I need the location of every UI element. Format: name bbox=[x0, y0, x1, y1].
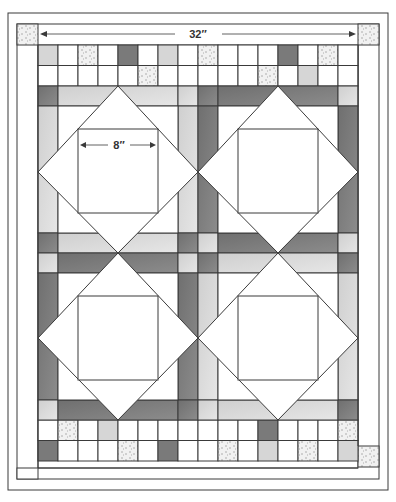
patch-square bbox=[98, 66, 118, 87]
patch-square bbox=[78, 45, 98, 66]
patch-square bbox=[198, 420, 218, 441]
patch-square bbox=[118, 420, 138, 441]
arrow-left-icon bbox=[40, 31, 47, 37]
center-square bbox=[238, 296, 318, 380]
patch-square bbox=[58, 420, 78, 441]
patch-square bbox=[278, 66, 298, 87]
patch-square bbox=[178, 45, 198, 66]
patch-square bbox=[158, 66, 178, 87]
patch-square bbox=[318, 66, 338, 87]
patch-square bbox=[138, 66, 158, 87]
patch-square bbox=[98, 45, 118, 66]
patch-square bbox=[158, 45, 178, 66]
patch-square bbox=[58, 45, 78, 66]
patch-square bbox=[78, 66, 98, 87]
patch-square bbox=[218, 66, 238, 87]
patch-square bbox=[38, 45, 58, 66]
patch-square bbox=[78, 441, 98, 462]
patch-square bbox=[198, 441, 218, 462]
patch-square bbox=[98, 441, 118, 462]
patch-square bbox=[238, 66, 258, 87]
patch-square bbox=[278, 441, 298, 462]
center-square bbox=[238, 129, 318, 213]
block-center-label: 8″ bbox=[113, 139, 125, 151]
patch-square bbox=[298, 441, 318, 462]
patch-square bbox=[118, 441, 138, 462]
patch-square bbox=[338, 441, 358, 462]
corner-square-bottom-left bbox=[17, 468, 38, 479]
patch-square bbox=[58, 66, 78, 87]
patch-square bbox=[38, 66, 58, 87]
patch-square bbox=[38, 441, 58, 462]
patch-square bbox=[178, 441, 198, 462]
patch-square bbox=[178, 66, 198, 87]
patch-square bbox=[138, 45, 158, 66]
patch-square bbox=[138, 441, 158, 462]
patch-square bbox=[158, 420, 178, 441]
patch-square bbox=[238, 45, 258, 66]
patch-square bbox=[338, 420, 358, 441]
patch-square bbox=[118, 66, 138, 87]
patch-square bbox=[218, 420, 238, 441]
patch-square bbox=[338, 45, 358, 66]
patch-square bbox=[218, 45, 238, 66]
patch-square bbox=[338, 66, 358, 87]
bottom-pieced-rows bbox=[38, 420, 358, 461]
quilt-diagram: 32″ 8″ bbox=[0, 0, 396, 502]
patch-square bbox=[278, 45, 298, 66]
corner-square-bottom-right bbox=[358, 446, 379, 467]
corner-square-top-right bbox=[358, 24, 379, 45]
patch-square bbox=[38, 420, 58, 441]
patch-square bbox=[58, 441, 78, 462]
overall-width-label: 32″ bbox=[189, 28, 207, 40]
patch-square bbox=[98, 420, 118, 441]
patch-square bbox=[238, 441, 258, 462]
patch-square bbox=[158, 441, 178, 462]
center-square bbox=[78, 296, 158, 380]
patch-square bbox=[198, 66, 218, 87]
patch-square bbox=[78, 420, 98, 441]
patch-square bbox=[138, 420, 158, 441]
patch-square bbox=[318, 420, 338, 441]
patch-square bbox=[278, 420, 298, 441]
patch-square bbox=[178, 420, 198, 441]
patch-square bbox=[238, 420, 258, 441]
top-pieced-rows bbox=[38, 45, 358, 86]
patch-square bbox=[218, 441, 238, 462]
arrow-right-icon bbox=[349, 31, 356, 37]
patch-square bbox=[258, 66, 278, 87]
patch-square bbox=[298, 45, 318, 66]
patch-square bbox=[318, 45, 338, 66]
overall-width-dimension: 32″ bbox=[40, 28, 356, 40]
patch-square bbox=[298, 66, 318, 87]
patch-square bbox=[298, 420, 318, 441]
patch-square bbox=[118, 45, 138, 66]
patch-square bbox=[318, 441, 338, 462]
corner-square-top-left bbox=[17, 24, 38, 45]
patch-square bbox=[198, 45, 218, 66]
patch-square bbox=[258, 441, 278, 462]
patch-square bbox=[258, 420, 278, 441]
patch-square bbox=[258, 45, 278, 66]
